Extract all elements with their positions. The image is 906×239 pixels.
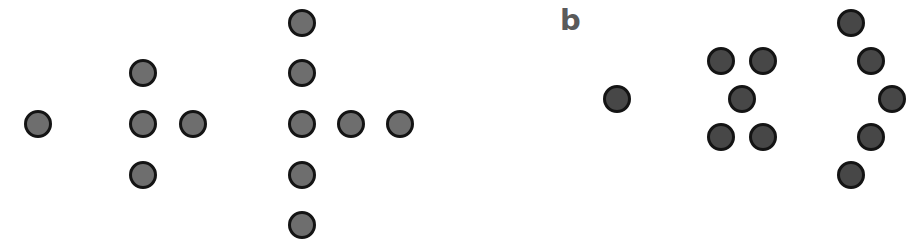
panel-label-b: b [560, 6, 581, 35]
dot [749, 123, 777, 151]
dot [857, 47, 885, 75]
dot [707, 47, 735, 75]
dot [728, 85, 756, 113]
dot [707, 123, 735, 151]
dot [837, 9, 865, 37]
dot [749, 47, 777, 75]
dot [837, 161, 865, 189]
dot [857, 123, 885, 151]
dot [603, 85, 631, 113]
dot [878, 85, 906, 113]
